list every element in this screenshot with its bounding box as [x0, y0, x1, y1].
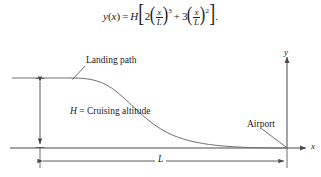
landing-path-diagram	[0, 0, 321, 177]
x-axis-label: x	[311, 142, 315, 151]
length-dimension-label: L	[155, 155, 166, 165]
figure-root: y(x)=H[2(xL)3+3(xL)2].	[0, 0, 321, 177]
airport-label: Airport	[247, 120, 275, 130]
landing-path-leader-line	[73, 66, 86, 80]
airport-leader-line	[262, 129, 286, 147]
cruising-altitude-text: = Cruising altitude	[77, 106, 151, 116]
cruising-altitude-label: H = Cruising altitude	[70, 107, 151, 117]
cruising-altitude-symbol: H	[70, 106, 77, 116]
landing-path-label: Landing path	[86, 56, 136, 66]
y-axis-label: y	[284, 48, 288, 57]
